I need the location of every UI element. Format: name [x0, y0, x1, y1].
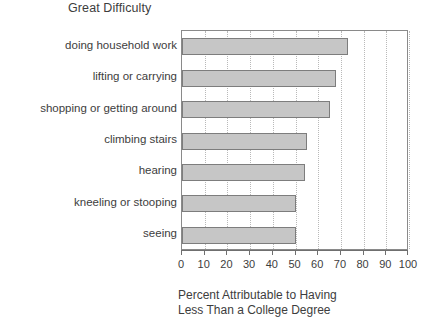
category-label: lifting or carrying: [5, 70, 177, 83]
x-axis-tick-label: 20: [220, 258, 232, 270]
x-axis-tick: [385, 250, 386, 255]
category-label: climbing stairs: [5, 133, 177, 146]
x-axis-tick: [407, 250, 408, 255]
x-axis-tick-label: 10: [198, 258, 210, 270]
bar: [182, 195, 296, 212]
x-axis-tick-label: 50: [288, 258, 300, 270]
bar: [182, 70, 336, 87]
x-axis-tick: [181, 250, 182, 255]
bar-chart: Great Difficulty doing household worklif…: [0, 0, 429, 332]
x-axis-line: [181, 250, 408, 251]
x-axis-tick: [340, 250, 341, 255]
x-axis-tick-label: 80: [356, 258, 368, 270]
chart-title: Great Difficulty: [68, 1, 151, 15]
gridline: [409, 31, 410, 249]
x-axis-tick: [272, 250, 273, 255]
bar: [182, 133, 307, 150]
x-axis-tick-label: 100: [399, 258, 417, 270]
category-label: hearing: [5, 164, 177, 177]
category-label: kneeling or stooping: [5, 196, 177, 209]
x-axis-tick-labels: 0102030405060708090100: [181, 258, 408, 272]
x-axis-tick: [226, 250, 227, 255]
bar: [182, 38, 348, 55]
x-axis-tick: [249, 250, 250, 255]
x-axis-title-line-1: Percent Attributable to Having: [178, 288, 337, 303]
x-axis-tick: [363, 250, 364, 255]
bar: [182, 164, 305, 181]
category-label: doing household work: [5, 39, 177, 52]
x-axis-tick-label: 30: [243, 258, 255, 270]
x-axis-tick: [295, 250, 296, 255]
x-axis-title: Percent Attributable to Having Less Than…: [178, 288, 337, 318]
bar: [182, 101, 330, 118]
x-axis-tick-label: 90: [379, 258, 391, 270]
category-label: shopping or getting around: [5, 102, 177, 115]
x-axis-tick: [317, 250, 318, 255]
plot-area: [181, 30, 408, 250]
x-axis-tick-label: 40: [266, 258, 278, 270]
x-axis-tick-label: 60: [311, 258, 323, 270]
x-axis-tick: [204, 250, 205, 255]
bar: [182, 227, 296, 244]
x-axis-title-line-2: Less Than a College Degree: [178, 303, 337, 318]
bars-layer: [182, 31, 407, 249]
x-axis-tick-label: 70: [334, 258, 346, 270]
x-axis-tick-label: 0: [178, 258, 184, 270]
category-label: seeing: [5, 227, 177, 240]
category-axis-labels: doing household worklifting or carryings…: [0, 30, 177, 250]
